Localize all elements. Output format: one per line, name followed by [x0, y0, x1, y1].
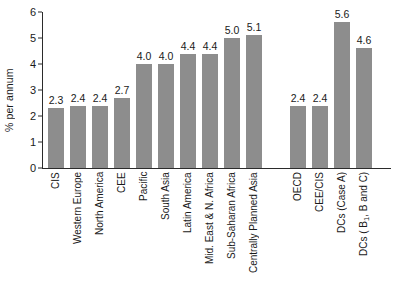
bar-value-label: 4.0 — [137, 51, 152, 62]
x-axis-line — [42, 168, 391, 169]
bar[interactable] — [48, 108, 64, 168]
x-axis-label: Mid. East & N. Africa — [203, 172, 216, 292]
y-tick-label-4: 4 — [20, 59, 36, 70]
bar[interactable] — [356, 48, 372, 168]
bar-value-label: 4.0 — [159, 51, 174, 62]
bar[interactable] — [246, 35, 262, 168]
bar-slot[interactable]: 2.3 — [48, 12, 64, 168]
bar[interactable] — [70, 106, 86, 168]
bar-slot[interactable]: 5.1 — [246, 12, 262, 168]
bar-slot[interactable]: 5.0 — [224, 12, 240, 168]
bar-chart: % per annum 0123456 2.32.42.42.74.04.04.… — [0, 0, 397, 295]
bar-slot[interactable]: 2.4 — [70, 12, 86, 168]
y-tick-label-5: 5 — [20, 33, 36, 44]
y-tick-mark-3 — [38, 90, 42, 91]
y-tick-mark-4 — [38, 64, 42, 65]
y-axis-title: % per annum — [2, 52, 16, 148]
x-axis-label: CEE — [115, 172, 128, 292]
bar-value-label: 5.1 — [247, 22, 262, 33]
x-axis-label: OECD — [291, 172, 304, 292]
x-axis-label: Latin America — [181, 172, 194, 292]
x-axis-label: CIS — [49, 172, 62, 292]
bar-slot[interactable]: 4.4 — [202, 12, 218, 168]
bar[interactable] — [92, 106, 108, 168]
bar[interactable] — [290, 106, 306, 168]
bar[interactable] — [224, 38, 240, 168]
bar-slot[interactable]: 4.0 — [158, 12, 174, 168]
x-axis-label: DCs ( B1, B and C) — [357, 172, 370, 292]
bar-value-label: 4.4 — [181, 41, 196, 52]
bar-slot[interactable]: 2.4 — [290, 12, 306, 168]
bar-value-label: 2.7 — [115, 85, 130, 96]
y-tick-mark-2 — [38, 116, 42, 117]
y-tick-label-1: 1 — [20, 137, 36, 148]
bar-slot[interactable]: 4.0 — [136, 12, 152, 168]
x-axis-label: Western Europe — [71, 172, 84, 292]
bar[interactable] — [180, 54, 196, 168]
x-axis-label: Pacific — [137, 172, 150, 292]
x-axis-label: South Asia — [159, 172, 172, 292]
bar-value-label: 2.4 — [291, 93, 306, 104]
bar[interactable] — [312, 106, 328, 168]
y-tick-label-2: 2 — [20, 111, 36, 122]
bar[interactable] — [158, 64, 174, 168]
x-axis-label: Centrally Planned Asia — [247, 172, 260, 292]
bar-slot[interactable]: 2.7 — [114, 12, 130, 168]
bar-value-label: 4.4 — [203, 41, 218, 52]
bar[interactable] — [136, 64, 152, 168]
y-tick-mark-1 — [38, 142, 42, 143]
x-axis-label: CEE/CIS — [313, 172, 326, 292]
plot-area: 2.32.42.42.74.04.04.44.45.05.12.42.45.64… — [43, 12, 391, 168]
y-tick-label-3: 3 — [20, 85, 36, 96]
bar-value-label: 2.3 — [49, 95, 64, 106]
y-tick-mark-0 — [38, 168, 42, 169]
bar-value-label: 5.0 — [225, 25, 240, 36]
bar-slot[interactable]: 5.6 — [334, 12, 350, 168]
bar[interactable] — [334, 22, 350, 168]
y-tick-mark-5 — [38, 38, 42, 39]
bar-value-label: 2.4 — [71, 93, 86, 104]
bar[interactable] — [114, 98, 130, 168]
bar-value-label: 2.4 — [313, 93, 328, 104]
y-tick-mark-6 — [38, 12, 42, 13]
bar[interactable] — [202, 54, 218, 168]
bar-slot[interactable]: 2.4 — [312, 12, 328, 168]
bar-value-label: 4.6 — [357, 35, 372, 46]
y-tick-label-0: 0 — [20, 163, 36, 174]
x-axis-label: Sub-Saharan Africa — [225, 172, 238, 292]
bar-value-label: 5.6 — [335, 9, 350, 20]
x-axis-label: North America — [93, 172, 106, 292]
bar-value-label: 2.4 — [93, 93, 108, 104]
y-tick-label-6: 6 — [20, 7, 36, 18]
bar-slot[interactable]: 4.6 — [356, 12, 372, 168]
bar-slot[interactable]: 4.4 — [180, 12, 196, 168]
bar-slot[interactable]: 2.4 — [92, 12, 108, 168]
x-axis-label: DCs (Case A) — [335, 172, 348, 292]
